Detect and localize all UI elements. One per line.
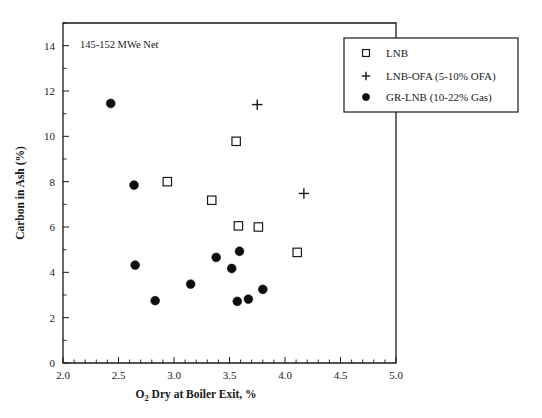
data-point-filled-circle [186,280,195,289]
legend-label: LNB-OFA (5-10% OFA) [386,70,496,83]
y-axis-ticks [63,23,69,363]
data-point-filled-circle [131,261,140,270]
data-markers-group [106,99,309,306]
plot-annotation: 145-152 MWe Net [80,39,159,50]
y-axis-title-text: Carbon in Ash (%) [14,146,27,240]
data-point-filled-circle [130,181,139,190]
data-point-plus [252,99,262,109]
y-tick-label: 14 [44,40,56,52]
y-axis-title: Carbon in Ash (%) [14,146,27,240]
data-point-filled-circle [258,285,267,294]
x-axis-title: O2 Dry at Boiler Exit, % [136,388,257,403]
legend-marker-open-square [363,50,370,57]
legend: LNBLNB-OFA (5-10% OFA)GR-LNB (10-22% Gas… [344,38,518,112]
data-point-filled-circle [233,297,242,306]
data-point-open-square [163,177,171,185]
y-tick-label: 10 [44,130,56,142]
x-tick-label: 3.5 [223,369,237,381]
x-axis-ticks [63,357,396,363]
x-tick-label: 2.0 [56,369,70,381]
series-lnb [163,137,301,256]
y-axis-tick-labels: 02468101214 [44,40,56,369]
data-point-open-square [254,223,262,231]
y-tick-label: 4 [50,266,56,278]
data-point-open-square [208,196,216,204]
scatter-plot-figure: 2.02.53.03.54.04.55.0 02468101214 O2 Dry… [0,0,542,418]
data-point-filled-circle [106,99,115,108]
legend-label: LNB [386,47,408,59]
x-tick-label: 4.5 [334,369,348,381]
y-tick-label: 0 [50,357,56,369]
data-point-open-square [293,248,301,256]
svg-text:O2 Dry at Boiler Exit, %: O2 Dry at Boiler Exit, % [136,388,257,403]
data-point-filled-circle [235,247,244,256]
data-point-filled-circle [212,253,221,262]
legend-marker-filled-circle [362,93,369,100]
data-point-plus [299,188,309,198]
series-lnb-ofa-5-10-ofa [252,99,309,198]
x-tick-label: 4.0 [278,369,292,381]
data-point-open-square [232,137,240,145]
data-point-open-square [234,222,242,230]
x-tick-label: 5.0 [389,369,403,381]
data-point-filled-circle [227,264,236,273]
x-axis-title-main: O [136,388,145,400]
data-point-filled-circle [244,295,253,304]
x-tick-label: 2.5 [112,369,126,381]
y-tick-label: 8 [50,176,56,188]
y-tick-label: 6 [50,221,56,233]
legend-label: GR-LNB (10-22% Gas) [386,91,492,104]
x-axis-tick-labels: 2.02.53.03.54.04.55.0 [56,369,403,381]
series-gr-lnb-10-22-gas [106,99,267,306]
plot-canvas: 2.02.53.03.54.04.55.0 02468101214 O2 Dry… [0,0,542,418]
data-point-filled-circle [151,296,160,305]
x-tick-label: 3.0 [167,369,181,381]
y-tick-label: 12 [44,85,55,97]
y-tick-label: 2 [50,312,56,324]
x-axis-title-rest: Dry at Boiler Exit, % [149,388,257,401]
